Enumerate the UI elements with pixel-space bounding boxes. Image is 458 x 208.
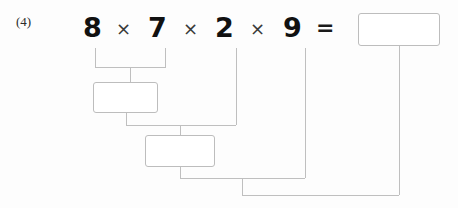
partial-product-box-2[interactable] bbox=[145, 135, 215, 167]
factor-1: 8 bbox=[83, 14, 102, 41]
factor-3: 2 bbox=[215, 14, 234, 41]
problem-number-label: (4) bbox=[16, 14, 31, 30]
multiply-operator-2: × bbox=[183, 20, 198, 38]
multiply-operator-1: × bbox=[116, 20, 131, 38]
bracket-8-7-line bbox=[95, 48, 165, 67]
equals-sign: = bbox=[316, 17, 334, 39]
worksheet-problem-4: (4) 8 × 7 × 2 × 9 = bbox=[0, 0, 458, 208]
final-answer-box[interactable] bbox=[358, 13, 440, 46]
factor-2: 7 bbox=[148, 14, 167, 41]
multiply-operator-3: × bbox=[250, 20, 265, 38]
partial-product-box-1[interactable] bbox=[93, 82, 158, 113]
factor-4: 9 bbox=[283, 14, 302, 41]
